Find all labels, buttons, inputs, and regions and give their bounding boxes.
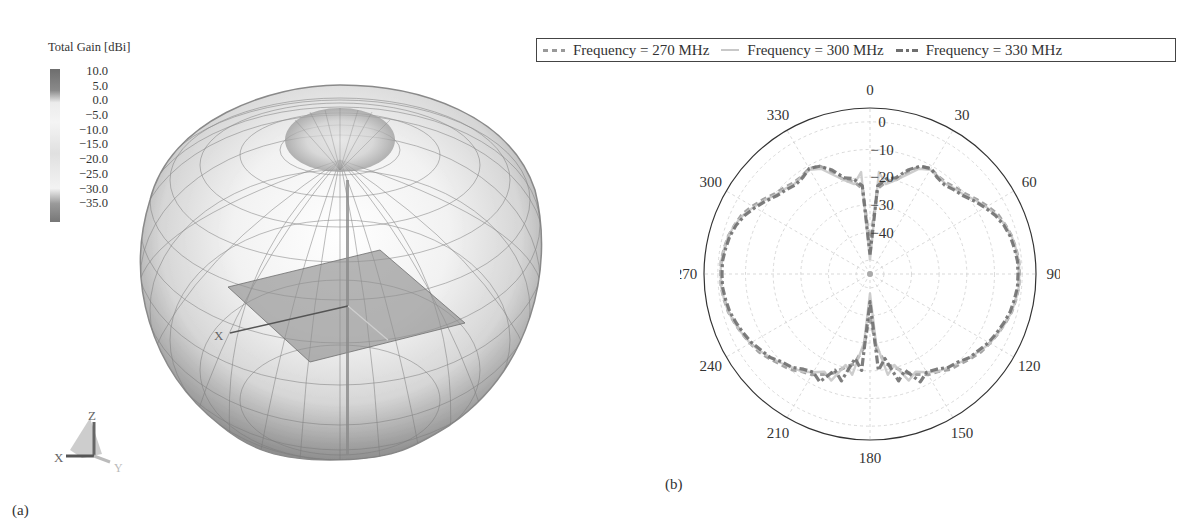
legend-item-330mhz: Frequency = 330 MHz bbox=[896, 42, 1062, 59]
angle-tick-label: 60 bbox=[1022, 174, 1037, 190]
legend-item-300mhz: Frequency = 300 MHz bbox=[721, 42, 883, 59]
angle-tick-label: 90 bbox=[1047, 266, 1061, 282]
angle-tick-label: 180 bbox=[859, 450, 882, 466]
colorbar-tick: −30.0 bbox=[62, 182, 108, 197]
solid-line-swatch-icon bbox=[721, 49, 739, 51]
triad-y-label: Y bbox=[114, 461, 123, 475]
angle-tick-label: 0 bbox=[866, 82, 874, 98]
chart-legend: Frequency = 270 MHz Frequency = 300 MHz … bbox=[536, 38, 1176, 62]
angle-tick-label: 150 bbox=[951, 425, 974, 441]
colorbar-tick: −15.0 bbox=[62, 137, 108, 152]
radiation-pattern-3d: X bbox=[110, 40, 550, 470]
colorbar-tick: −20.0 bbox=[62, 152, 108, 167]
polar-grid bbox=[704, 108, 1036, 440]
legend-label: Frequency = 300 MHz bbox=[747, 42, 883, 59]
panel-a-3d-pattern: Total Gain [dBi] 10.0 5.0 0.0 −5.0 −10.0… bbox=[0, 0, 560, 532]
colorbar-tick: −10.0 bbox=[62, 123, 108, 138]
radial-tick-label: −10 bbox=[870, 142, 893, 158]
radial-tick-label: −40 bbox=[870, 225, 893, 241]
colorbar-tick: −35.0 bbox=[62, 196, 108, 211]
panel-label-a: (a) bbox=[12, 502, 29, 519]
colorbar-tick: 5.0 bbox=[62, 79, 108, 94]
colorbar-tick: 0.0 bbox=[62, 93, 108, 108]
radial-tick-label: 0 bbox=[878, 114, 886, 130]
legend-label: Frequency = 270 MHz bbox=[573, 42, 709, 59]
colorbar bbox=[50, 69, 60, 222]
polar-plot: 0306090120150180210240270300330 0−10−20−… bbox=[680, 80, 1060, 500]
radial-tick-label: −30 bbox=[870, 197, 893, 213]
angle-tick-label: 210 bbox=[767, 425, 790, 441]
legend-item-270mhz: Frequency = 270 MHz bbox=[543, 42, 709, 59]
axis-triad: Z X Y bbox=[52, 410, 142, 490]
angle-tick-label: 30 bbox=[955, 107, 970, 123]
angle-tick-label: 270 bbox=[680, 266, 697, 282]
legend-label: Frequency = 330 MHz bbox=[926, 42, 1062, 59]
panel-label-b: (b) bbox=[665, 476, 683, 493]
colorbar-tick: −25.0 bbox=[62, 167, 108, 182]
triad-z-label: Z bbox=[88, 410, 96, 423]
dash-dot-line-swatch-icon bbox=[896, 49, 918, 52]
triad-x-label: X bbox=[54, 450, 64, 465]
colorbar-tick-labels: 10.0 5.0 0.0 −5.0 −10.0 −15.0 −20.0 −25.… bbox=[62, 64, 108, 211]
angle-tick-label: 240 bbox=[699, 358, 722, 374]
model-x-axis-label: X bbox=[214, 328, 224, 343]
angle-tick-label: 300 bbox=[699, 174, 722, 190]
angle-tick-label: 330 bbox=[767, 107, 790, 123]
colorbar-tick: −5.0 bbox=[62, 108, 108, 123]
angle-tick-label: 120 bbox=[1018, 358, 1041, 374]
dashed-line-swatch-icon bbox=[543, 49, 565, 52]
radial-tick-label: −20 bbox=[870, 169, 893, 185]
colorbar-tick: 10.0 bbox=[62, 64, 108, 79]
